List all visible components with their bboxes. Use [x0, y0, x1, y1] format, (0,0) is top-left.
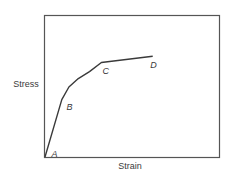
stress-strain-chart: ABCD Strain Stress: [0, 0, 236, 183]
series-layer: [45, 56, 153, 157]
series-line-0: [45, 56, 153, 157]
point-label-c: C: [102, 66, 109, 76]
y-axis-label: Stress: [13, 79, 39, 89]
point-label-d: D: [150, 60, 157, 70]
x-axis-label: Strain: [118, 161, 142, 171]
point-label-a: A: [50, 149, 57, 159]
plot-frame: [45, 16, 220, 158]
point-label-b: B: [66, 102, 72, 112]
annotation-layer: ABCD: [50, 60, 157, 160]
